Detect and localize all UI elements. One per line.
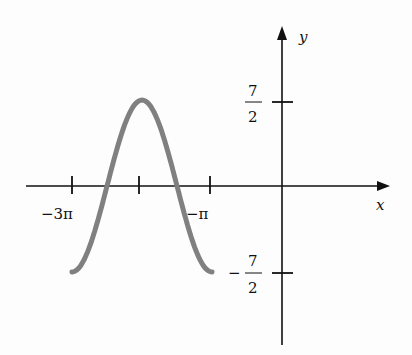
y-neg-denominator: 2 [248,279,258,297]
y-pos-denominator: 2 [248,108,258,126]
y-axis-label: y [298,28,308,46]
cosine-graph: y x −3π −π 7 2 − 7 2 [0,0,412,355]
y-neg-numerator: 7 [248,252,258,270]
x-axis-arrow-icon [377,181,390,191]
tick-label-negpi: −π [186,205,209,223]
tick-label-neg3pi: −3π [41,205,73,223]
y-pos-numerator: 7 [248,82,258,100]
y-neg-sign: − [228,264,241,282]
y-axis-arrow-icon [277,26,287,40]
x-axis-label: x [376,196,385,214]
